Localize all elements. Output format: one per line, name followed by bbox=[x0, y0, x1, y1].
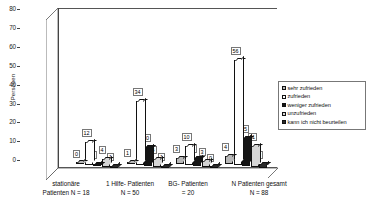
bar-rect bbox=[234, 60, 242, 165]
bar-rect bbox=[225, 156, 233, 164]
x-label-line1: N Patienten gesamt bbox=[211, 180, 307, 189]
bar-value-label: 56 bbox=[231, 47, 241, 55]
bar-group: 1341041 bbox=[127, 8, 178, 168]
bar-value-label: 0 bbox=[73, 150, 80, 158]
y-tick-mark bbox=[17, 104, 20, 105]
bar-value-label: 4 bbox=[222, 143, 229, 151]
y-tick-label: 70 bbox=[0, 25, 16, 31]
legend-item[interactable]: kann ich nicht beurteilen bbox=[282, 118, 363, 126]
y-tick-label: 80 bbox=[0, 6, 16, 12]
legend-item-label: sehr zufrieden bbox=[288, 85, 323, 92]
x-axis-category-label: N Patienten gesamtN = 88 bbox=[211, 180, 307, 197]
chart-legend: sehr zufriedenzufriedenweniger zufrieden… bbox=[278, 81, 366, 130]
bar-group: 012141 bbox=[76, 8, 127, 168]
y-tick-label: 60 bbox=[0, 44, 16, 50]
bar-rect bbox=[136, 101, 144, 165]
legend-item-label: kann ich nicht beurteilen bbox=[288, 119, 347, 126]
x-axis-labels: stationärePatienten N = 181 Hilfe- Patie… bbox=[28, 180, 308, 210]
bar-value-label: 34 bbox=[133, 88, 143, 96]
legend-swatch-icon bbox=[282, 103, 286, 107]
bar-rect bbox=[210, 166, 218, 168]
bar-rect bbox=[93, 164, 101, 166]
y-tick-mark bbox=[17, 85, 20, 86]
y-axis-labels: Personen 80706050403020100 bbox=[0, 0, 46, 176]
bar-value-label: 4 bbox=[99, 146, 106, 154]
y-tick-mark bbox=[17, 28, 20, 29]
bar-rect bbox=[127, 162, 135, 164]
y-tick-mark bbox=[17, 160, 20, 161]
y-tick-label: 50 bbox=[0, 63, 16, 69]
y-tick-mark bbox=[17, 122, 20, 123]
bar-value-label: 3 bbox=[173, 145, 180, 153]
y-tick-label: 10 bbox=[0, 138, 16, 144]
bar-rect bbox=[176, 158, 184, 164]
x-label-line2: N = 88 bbox=[211, 189, 307, 198]
legend-item-label: weniger zufrieden bbox=[288, 102, 331, 109]
y-tick-mark bbox=[17, 141, 20, 142]
legend-item[interactable]: weniger zufrieden bbox=[282, 101, 363, 109]
legend-swatch-icon bbox=[282, 112, 286, 116]
bar-rect bbox=[161, 166, 169, 168]
legend-item[interactable]: zufrieden bbox=[282, 93, 363, 101]
bar-rect bbox=[259, 164, 267, 168]
bar-groups: 012141134104131043045615112 bbox=[58, 8, 277, 168]
bar-value-label: 1 bbox=[124, 149, 131, 157]
bar-value-label: 10 bbox=[182, 133, 192, 141]
bar-group: 310430 bbox=[176, 8, 227, 168]
bar-group: 45615112 bbox=[225, 8, 276, 168]
y-tick-mark bbox=[17, 9, 20, 10]
bar-rect bbox=[76, 162, 84, 164]
legend-swatch-icon bbox=[282, 95, 286, 99]
y-tick-label: 30 bbox=[0, 101, 16, 107]
bar-rect bbox=[110, 166, 118, 168]
legend-swatch-icon bbox=[282, 86, 286, 90]
legend-item[interactable]: unzufrieden bbox=[282, 110, 363, 118]
legend-item-label: unzufrieden bbox=[288, 110, 317, 117]
y-tick-label: 20 bbox=[0, 119, 16, 125]
y-tick-label: 0 bbox=[0, 157, 16, 163]
legend-swatch-icon bbox=[282, 120, 286, 124]
y-tick-label: 40 bbox=[0, 82, 16, 88]
legend-item[interactable]: sehr zufrieden bbox=[282, 84, 363, 92]
y-tick-mark bbox=[17, 47, 20, 48]
y-tick-mark bbox=[17, 66, 20, 67]
bar-value-label: 12 bbox=[82, 129, 92, 137]
chart-root: 012141134104131043045615112 Personen 807… bbox=[0, 0, 369, 213]
legend-item-label: zufrieden bbox=[288, 93, 311, 100]
plot-area: 012141134104131043045615112 bbox=[46, 8, 278, 176]
bar-rect bbox=[202, 161, 210, 167]
